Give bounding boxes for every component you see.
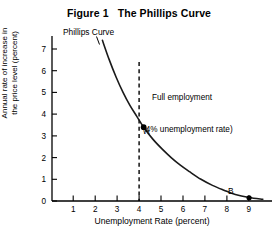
curve-label-leader-line [97,37,100,45]
x-tick-label: 2 [93,205,98,214]
point-b-marker [246,195,251,200]
y-tick-label: 5 [41,88,46,97]
plot-area: 0 1 2 3 4 5 6 7 1 2 3 4 5 6 [0,0,278,238]
y-tick-labels: 0 1 2 3 4 5 6 7 [41,45,46,206]
full-employment-annotation-line2: (4% unemployment rate) [143,125,233,136]
x-tick-label: 5 [159,205,164,214]
full-employment-annotation-line1: Full employment [143,93,233,104]
x-axis-label: Unemployment Rate (percent) [52,216,252,226]
x-tick-label: 8 [225,205,230,214]
y-tick-label: 0 [41,197,46,206]
x-tick-label: 1 [71,205,76,214]
phillips-curve-figure: Figure 1 The Phillips Curve 0 1 2 3 4 5 … [0,0,278,238]
x-tick-label: 3 [115,205,120,214]
y-tick-label: 6 [41,67,46,76]
point-b-label: B [228,186,234,196]
x-tick-labels: 1 2 3 4 5 6 7 8 9 [71,205,252,214]
point-a-label: A [144,126,150,136]
y-tick-label: 2 [41,154,46,163]
x-tick-label: 4 [137,205,142,214]
x-tick-label: 6 [181,205,186,214]
y-axis-ticks [52,49,57,201]
full-employment-annotation: Full employment (4% unemployment rate) [143,72,233,156]
phillips-curve-label: Phillips Curve [63,27,114,37]
x-tick-label: 9 [247,205,252,214]
x-tick-label: 7 [203,205,208,214]
y-tick-label: 7 [41,45,46,54]
x-axis-ticks [73,196,249,202]
y-tick-label: 1 [41,175,46,184]
y-tick-label: 4 [41,110,46,119]
y-tick-label: 3 [41,132,46,141]
